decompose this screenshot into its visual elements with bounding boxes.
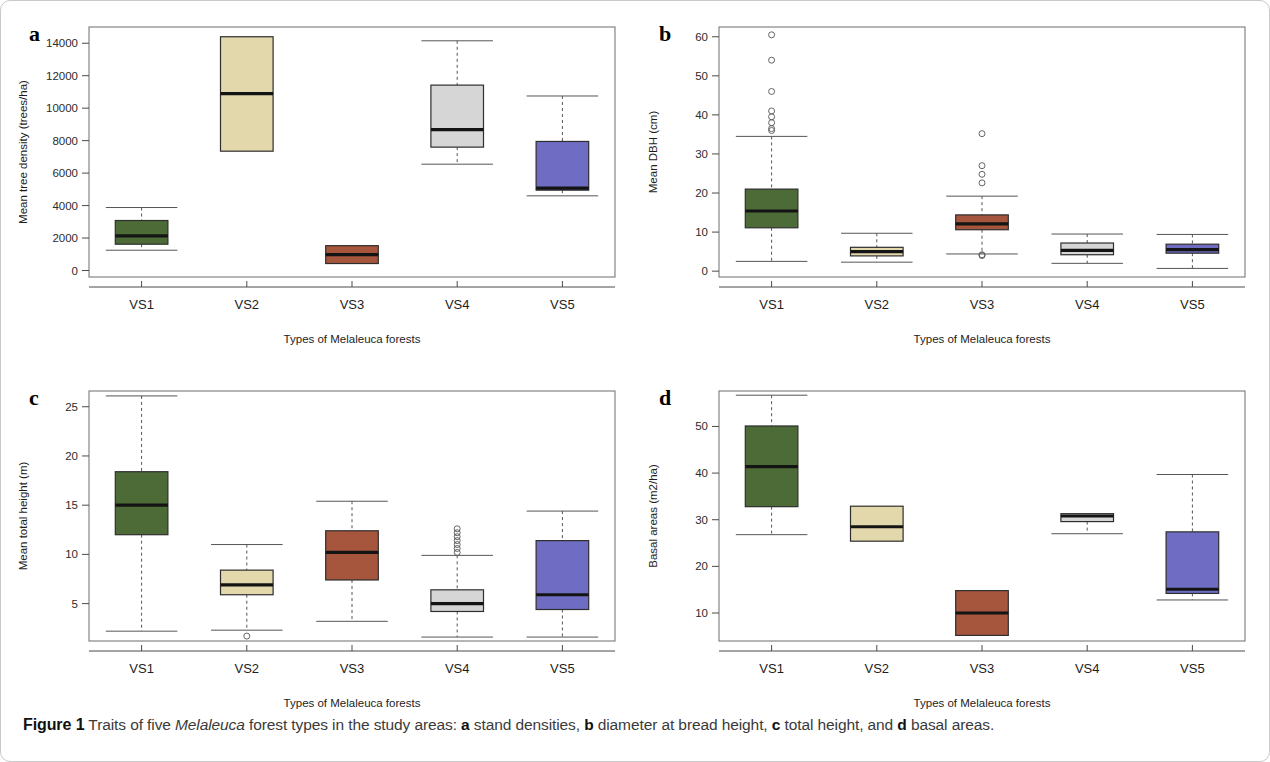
y-tick-label-0: 5 <box>72 598 78 610</box>
x-tick-label-VS4: VS4 <box>1075 661 1100 676</box>
panel-letter-c: c <box>29 385 39 410</box>
x-tick-label-VS2: VS2 <box>865 297 890 312</box>
boxplot-c-VS1 <box>106 396 178 631</box>
caption-bar: Figure 1 Traits of five Melaleuca forest… <box>1 713 1270 759</box>
y-tick-label-3: 6000 <box>52 167 78 179</box>
boxplot-d-VS5 <box>1157 474 1229 599</box>
figure-caption-label: Figure 1 <box>23 716 84 733</box>
figure-caption-c-text: total height, and <box>780 716 897 733</box>
y-tick-label-7: 14000 <box>46 37 78 49</box>
boxplot-b-VS2 <box>841 233 913 262</box>
x-tick-label-VS3: VS3 <box>970 661 995 676</box>
chart-a: 02000400060008000100001200014000Mean tre… <box>7 5 635 363</box>
box-body <box>536 141 589 190</box>
boxplot-a-VS1 <box>106 208 178 251</box>
y-axis-title: Basal areas (m2/ha) <box>647 464 659 568</box>
x-tick-label-VS5: VS5 <box>1180 297 1205 312</box>
boxplot-d-VS3 <box>956 591 1009 636</box>
boxplot-d-VS2 <box>851 506 904 541</box>
y-tick-label-2: 4000 <box>52 200 78 212</box>
figure-caption-d-text: basal areas. <box>907 716 994 733</box>
figure-caption-marker-d: d <box>897 716 906 733</box>
boxplot-b-VS3 <box>946 131 1018 259</box>
x-tick-label-VS5: VS5 <box>1180 661 1205 676</box>
panel-letter-d: d <box>659 385 671 410</box>
x-tick-label-VS2: VS2 <box>235 661 260 676</box>
chart-b: 0102030405060Mean DBH (cm)bVS1VS2VS3VS4V… <box>637 5 1265 363</box>
boxplot-a-VS2 <box>221 37 274 151</box>
y-tick-label-5: 50 <box>695 70 708 82</box>
y-axis-title: Mean total height (m) <box>17 462 29 571</box>
x-tick-label-VS4: VS4 <box>445 297 470 312</box>
x-tick-label-VS1: VS1 <box>759 661 784 676</box>
x-tick-label-VS3: VS3 <box>340 661 365 676</box>
y-tick-label-2: 20 <box>695 187 708 199</box>
outlier-point-3 <box>979 171 985 177</box>
outlier-point-2 <box>769 120 775 126</box>
boxplot-b-VS1 <box>736 32 808 262</box>
figure-caption-genus: Melaleuca <box>175 716 245 733</box>
x-tick-label-VS5: VS5 <box>550 297 575 312</box>
y-tick-label-4: 40 <box>695 109 708 121</box>
boxplot-c-VS3 <box>316 501 388 621</box>
boxplot-c-VS4 <box>421 526 493 637</box>
panel-letter-a: a <box>29 21 40 46</box>
boxplot-c-VS2 <box>211 545 283 640</box>
panel-a-stand-densities: 02000400060008000100001200014000Mean tre… <box>7 5 635 363</box>
plot-frame <box>719 27 1245 277</box>
x-axis-title: Types of Melaleuca forests <box>284 333 421 345</box>
outlier-point-4 <box>769 108 775 114</box>
panel-c-total-height: 510152025Mean total height (m)cVS1VS2VS3… <box>7 369 635 727</box>
outlier-point-0 <box>244 633 250 639</box>
y-tick-label-2: 15 <box>65 499 78 511</box>
figure-caption-marker-b: b <box>584 716 593 733</box>
box-body <box>536 541 589 610</box>
boxplot-d-VS4 <box>1051 514 1123 534</box>
x-tick-label-VS1: VS1 <box>129 297 154 312</box>
x-tick-label-VS4: VS4 <box>445 661 470 676</box>
x-tick-label-VS3: VS3 <box>340 297 365 312</box>
y-tick-label-2: 30 <box>695 514 708 526</box>
x-axis-title: Types of Melaleuca forests <box>914 333 1051 345</box>
outlier-point-7 <box>769 32 775 38</box>
boxplot-b-VS4 <box>1051 234 1123 263</box>
outlier-point-6 <box>769 57 775 63</box>
x-tick-label-VS4: VS4 <box>1075 297 1100 312</box>
boxplot-a-VS5 <box>527 96 599 196</box>
outlier-point-4 <box>979 163 985 169</box>
boxplot-a-VS4 <box>421 41 493 164</box>
x-tick-label-VS2: VS2 <box>235 297 260 312</box>
y-tick-label-6: 60 <box>695 31 708 43</box>
box-body <box>1166 532 1219 594</box>
y-tick-label-6: 12000 <box>46 70 78 82</box>
y-tick-label-0: 0 <box>702 265 708 277</box>
x-tick-label-VS3: VS3 <box>970 297 995 312</box>
outlier-point-5 <box>979 131 985 137</box>
y-tick-label-4: 25 <box>65 401 78 413</box>
box-body <box>745 189 798 228</box>
box-body <box>431 590 484 612</box>
y-tick-label-1: 10 <box>695 226 708 238</box>
box-body <box>326 531 379 580</box>
box-body <box>221 570 274 595</box>
box-body <box>115 472 168 535</box>
figure-card: 02000400060008000100001200014000Mean tre… <box>0 0 1270 762</box>
x-tick-label-VS1: VS1 <box>129 661 154 676</box>
outlier-point-2 <box>979 180 985 186</box>
y-tick-label-0: 0 <box>72 265 78 277</box>
x-tick-label-VS2: VS2 <box>865 661 890 676</box>
y-tick-label-1: 20 <box>695 560 708 572</box>
outlier-point-6 <box>454 526 460 532</box>
y-tick-label-1: 2000 <box>52 232 78 244</box>
y-tick-label-4: 50 <box>695 420 708 432</box>
y-axis-title: Mean tree density (trees/ha) <box>17 80 29 224</box>
box-body <box>431 85 484 147</box>
panel-d-basal-areas: 1020304050Basal areas (m2/ha)dVS1VS2VS3V… <box>637 369 1265 727</box>
y-tick-label-0: 10 <box>695 607 708 619</box>
x-axis-title: Types of Melaleuca forests <box>284 697 421 709</box>
y-axis-title: Mean DBH (cm) <box>647 111 659 194</box>
y-tick-label-3: 40 <box>695 467 708 479</box>
x-axis-title: Types of Melaleuca forests <box>914 697 1051 709</box>
chart-d: 1020304050Basal areas (m2/ha)dVS1VS2VS3V… <box>637 369 1265 727</box>
outlier-point-5 <box>769 88 775 94</box>
